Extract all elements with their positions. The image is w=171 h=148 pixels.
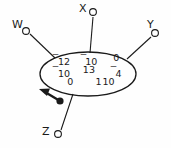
matrix-cell-r3c2: 1 xyxy=(75,76,102,88)
node-label-x: X xyxy=(79,3,87,14)
matrix-cell-r3c3: 10 xyxy=(103,76,130,88)
diagram-canvas: W X Y Z ‾12 ‾10 0 ‾10 13 ‾4 0 1 10 xyxy=(0,0,171,148)
edge-y-to-ellipse xyxy=(127,37,151,59)
node-circle-w[interactable] xyxy=(23,28,30,35)
matrix-value-r3c1: 0 xyxy=(67,76,73,87)
matrix-cell-r1c2: ‾10 xyxy=(75,52,102,64)
node-label-w: W xyxy=(12,19,23,30)
negative-sign-r2c3: ‾ xyxy=(111,64,116,76)
negative-sign-r2c1: ‾ xyxy=(53,64,58,76)
matrix-cell-r2c1: ‾10 xyxy=(48,64,75,76)
matrix-cell-r2c2: 13 xyxy=(75,64,102,76)
node-circle-z[interactable] xyxy=(55,131,62,138)
matrix-value-r2c2: 13 xyxy=(83,64,95,75)
matrix-cell-r1c1: ‾12 xyxy=(48,52,75,64)
matrix-cell-r1c3: 0 xyxy=(103,52,130,64)
matrix-grid: ‾12 ‾10 0 ‾10 13 ‾4 0 1 10 xyxy=(48,52,130,88)
negative-sign-r1c1: ‾ xyxy=(53,52,58,64)
matrix-value-r3c3: 10 xyxy=(102,76,114,87)
node-circle-x[interactable] xyxy=(90,9,97,16)
matrix-value-r1c3: 0 xyxy=(113,52,119,63)
node-label-z: Z xyxy=(42,126,50,137)
matrix-cell-r2c3: ‾4 xyxy=(103,64,130,76)
pointer-dot-icon xyxy=(56,97,63,104)
arrow-pointer-icon xyxy=(39,89,64,105)
node-label-y: Y xyxy=(147,19,154,30)
matrix-value-r3c2: 1 xyxy=(96,76,102,87)
matrix-cell-r3c1: 0 xyxy=(48,76,75,88)
negative-sign-r1c2: ‾ xyxy=(80,52,85,64)
edge-x-to-ellipse xyxy=(90,17,93,53)
